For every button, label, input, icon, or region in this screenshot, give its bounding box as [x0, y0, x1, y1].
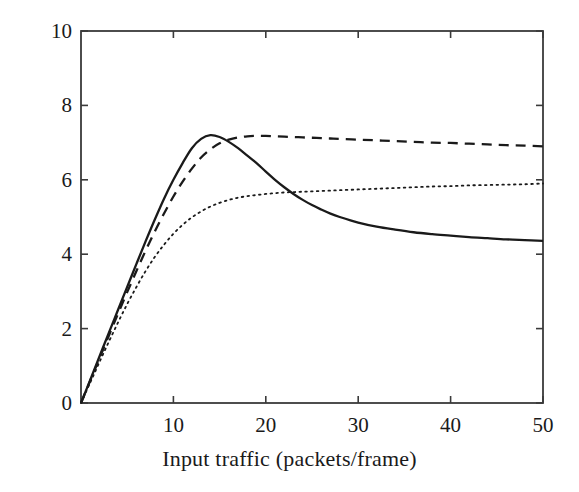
plot-canvas — [0, 0, 579, 492]
x-tick-label: 10 — [163, 415, 184, 436]
x-tick-label: 40 — [440, 415, 461, 436]
y-tick-label: 8 — [30, 95, 72, 116]
throughput-chart-figure: 0246810 1020304050 Throughput (packets/f… — [0, 0, 579, 492]
y-tick-label: 6 — [30, 169, 72, 190]
y-tick-label: 2 — [30, 318, 72, 339]
y-tick-label: 10 — [30, 21, 72, 42]
y-tick-label: 4 — [30, 244, 72, 265]
x-tick-label: 50 — [533, 415, 554, 436]
y-tick-label: 0 — [30, 393, 72, 414]
x-axis-title: Input traffic (packets/frame) — [0, 446, 579, 472]
x-tick-label: 30 — [348, 415, 369, 436]
plot-frame — [81, 31, 543, 403]
x-tick-label: 20 — [255, 415, 276, 436]
